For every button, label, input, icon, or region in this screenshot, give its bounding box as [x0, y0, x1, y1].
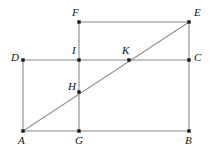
point-label-e: E [194, 7, 201, 18]
point-label-c: C [194, 52, 201, 63]
point-label-f: F [72, 7, 79, 18]
point-label-i: I [72, 45, 76, 56]
vertex-point-c [187, 58, 190, 61]
point-label-d: D [11, 52, 19, 63]
vertex-point-g [77, 129, 80, 132]
vertex-point-h [77, 90, 80, 93]
point-label-h: H [68, 81, 76, 92]
vertex-point-k [127, 58, 130, 61]
vertex-point-e [187, 20, 190, 23]
vertex-point-a [21, 129, 24, 132]
point-label-g: G [75, 135, 83, 146]
vertex-point-d [21, 58, 24, 61]
figure-canvas [0, 0, 211, 153]
point-label-b: B [185, 135, 192, 146]
point-label-a: A [18, 135, 25, 146]
vertex-point-i [77, 58, 80, 61]
vertex-point-f [77, 20, 80, 23]
diagonal-ae [23, 22, 189, 131]
vertex-point-b [187, 129, 190, 132]
geometry-figure: ABCDEFGHIK [0, 0, 211, 153]
point-label-k: K [122, 45, 129, 56]
